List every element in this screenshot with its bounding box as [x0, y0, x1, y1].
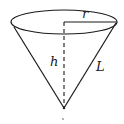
- cone-figure: r h L: [0, 0, 124, 124]
- cone-diagram: r h L: [0, 0, 124, 124]
- apex-point: [63, 107, 65, 109]
- radius-label: r: [82, 6, 89, 21]
- stray-mark: [62, 118, 64, 120]
- slant-height-label: L: [95, 59, 105, 74]
- height-label: h: [50, 54, 58, 69]
- cone-slant-side: [64, 23, 116, 108]
